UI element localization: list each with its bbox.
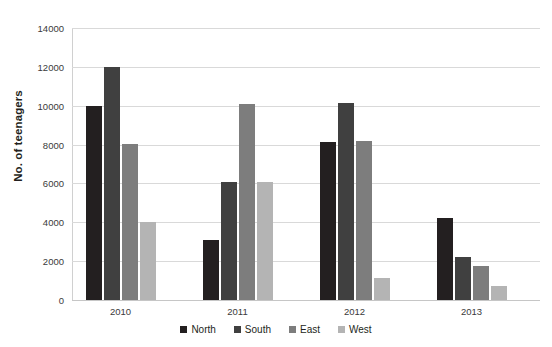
legend-label: East [300,324,320,335]
plot-area [72,28,540,300]
bar-west-2012 [374,278,390,300]
bar-south-2012 [338,103,354,300]
chart-legend: NorthSouthEastWest [0,324,552,335]
bar-south-2011 [221,182,237,301]
bar-west-2011 [257,182,273,301]
y-axis-tick-label: 8000 [6,139,64,150]
bar-east-2012 [356,141,372,300]
legend-swatch-icon [289,326,296,333]
bar-north-2013 [437,218,453,300]
x-axis-tick-label: 2010 [110,306,131,317]
bar-east-2011 [239,104,255,300]
bar-south-2013 [455,257,471,300]
bar-west-2010 [140,222,156,300]
bar-east-2013 [473,266,489,300]
y-axis-tick-label: 0 [6,295,64,306]
gridline [72,183,540,184]
y-axis-tick-label: 4000 [6,217,64,228]
legend-item-west[interactable]: West [338,324,372,335]
bar-north-2011 [203,240,219,300]
legend-swatch-icon [180,326,187,333]
legend-item-north[interactable]: North [180,324,215,335]
bar-west-2013 [491,286,507,300]
x-axis-tick-label: 2012 [344,306,365,317]
legend-swatch-icon [234,326,241,333]
legend-item-south[interactable]: South [234,324,271,335]
gridline [72,300,540,301]
bar-east-2010 [122,144,138,300]
legend-label: North [191,324,215,335]
y-axis-tick-label: 6000 [6,178,64,189]
x-axis-tick-label: 2011 [227,306,247,317]
bar-north-2012 [320,142,336,300]
y-axis-tick-label: 2000 [6,256,64,267]
gridline [72,67,540,68]
y-axis-tick-label: 14000 [6,23,64,34]
gridline [72,28,540,29]
gridline [72,145,540,146]
y-axis-tick-label: 12000 [6,61,64,72]
x-axis-tick-label: 2013 [461,306,482,317]
bar-south-2010 [104,67,120,300]
y-axis-tick-label: 10000 [6,100,64,111]
gridline [72,106,540,107]
legend-label: South [245,324,271,335]
bar-north-2010 [86,106,102,300]
legend-swatch-icon [338,326,345,333]
legend-item-east[interactable]: East [289,324,320,335]
legend-label: West [349,324,372,335]
bar-chart: No. of teenagers 02000400060008000100001… [0,0,552,347]
